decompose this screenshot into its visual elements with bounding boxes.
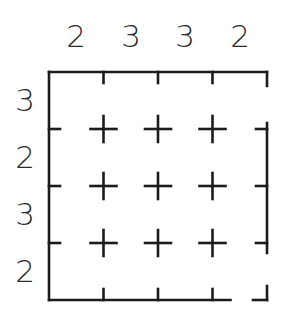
cross-marker-r0-c2 — [200, 116, 226, 142]
puzzle-figure: 2 3 3 2 3 2 3 2 — [0, 0, 296, 321]
cross-marker-r1-c0 — [91, 173, 117, 199]
cross-marker-r1-c2 — [200, 173, 226, 199]
cross-marker-r2-c2 — [200, 230, 226, 256]
grid-drawing — [0, 0, 296, 321]
cross-marker-r0-c1 — [145, 116, 171, 142]
cross-marker-r2-c1 — [145, 230, 171, 256]
cross-marker-r0-c0 — [91, 116, 117, 142]
cross-marker-r1-c1 — [145, 173, 171, 199]
cross-marker-r2-c0 — [91, 230, 117, 256]
